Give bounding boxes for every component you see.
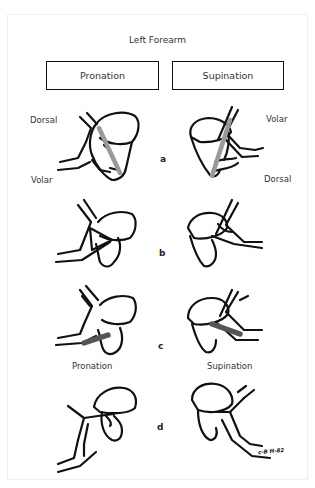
drawing-c-pronation [56, 286, 136, 354]
anatomy-drawings [0, 0, 315, 488]
plate-c-pronation [84, 335, 108, 343]
drawing-d-supination [192, 384, 270, 458]
drawing-a-supination [190, 107, 263, 176]
drawing-a-pronation [58, 113, 139, 180]
rod-a-pronation [99, 128, 120, 173]
plate-c-supination [212, 324, 240, 334]
drawing-d-pronation [58, 388, 136, 472]
drawing-b-pronation [56, 200, 136, 267]
drawing-b-supination [188, 200, 262, 266]
drawing-c-supination [188, 290, 262, 352]
